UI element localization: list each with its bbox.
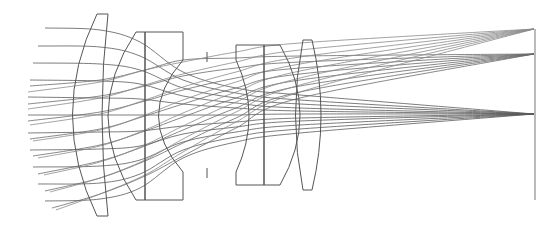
lens-ray-trace-diagram [0, 0, 560, 228]
